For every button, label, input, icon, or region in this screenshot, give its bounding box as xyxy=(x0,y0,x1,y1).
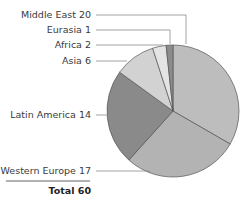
label-middle-east: Middle East 20 xyxy=(21,9,91,20)
pie-chart: Middle East 20 Eurasia 1 Africa 2 Asia 6… xyxy=(0,0,245,208)
label-africa: Africa 2 xyxy=(55,39,91,50)
label-latin-america: Latin America 14 xyxy=(10,109,91,120)
pie-slices xyxy=(107,45,239,177)
total-label: Total 60 xyxy=(49,185,92,196)
label-asia: Asia 6 xyxy=(62,55,91,66)
label-western-europe: Western Europe 17 xyxy=(1,165,92,176)
leader-middle-east xyxy=(96,15,186,44)
label-eurasia: Eurasia 1 xyxy=(47,24,91,35)
labels: Middle East 20 Eurasia 1 Africa 2 Asia 6… xyxy=(1,9,92,196)
leader-eurasia xyxy=(96,30,170,44)
